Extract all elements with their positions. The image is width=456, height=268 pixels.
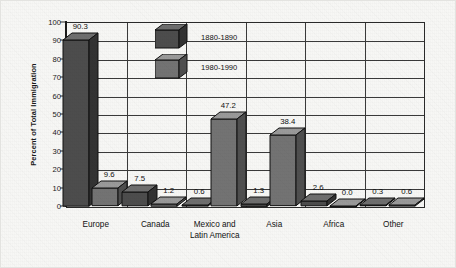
- x-axis-category-label: Mexico andLatin America: [190, 220, 240, 241]
- x-axis-category-label-line: Africa: [323, 220, 344, 231]
- y-axis: 0102030405060708090100: [39, 0, 61, 268]
- legend-item-label: 1880-1890: [201, 33, 237, 42]
- y-axis-tick-label: 80: [41, 54, 61, 63]
- x-axis-category-label-line: Mexico and: [190, 220, 240, 231]
- legend-swatch-cube: [155, 54, 189, 80]
- bar-value-label: 2.6: [313, 183, 324, 192]
- y-axis-tick-label: 40: [41, 128, 61, 137]
- bar-mexico-and-latin-america-series-2: [211, 112, 248, 208]
- legend-item-label: 1980-1990: [201, 63, 237, 72]
- y-axis-tick-label: 70: [41, 73, 61, 82]
- x-axis-category-label: Europe: [83, 220, 109, 231]
- y-axis-tick-label: 20: [41, 165, 61, 174]
- bars-layer: 90.39.67.51.20.647.21.338.42.60.00.30.6: [66, 22, 423, 206]
- bar-value-label: 0.0: [342, 188, 353, 197]
- bar-value-label: 7.5: [134, 174, 145, 183]
- bar-value-label: 1.3: [253, 186, 264, 195]
- y-axis-tick-label: 10: [41, 183, 61, 192]
- bar-value-label: 90.3: [73, 22, 88, 31]
- bar-value-label: 0.6: [194, 187, 205, 196]
- bar-value-label: 1.2: [163, 186, 174, 195]
- x-axis-category-label-line: Asia: [266, 220, 282, 231]
- legend-swatch-cube: [155, 24, 189, 50]
- x-axis-category-label-line: Europe: [83, 220, 109, 231]
- y-axis-title-label: Percent of Total Immigration: [29, 63, 38, 165]
- y-axis-tick-label: 50: [41, 110, 61, 119]
- x-axis-category-label-line: Other: [383, 220, 403, 231]
- bar-value-label: 0.6: [401, 187, 412, 196]
- x-axis-category-label: Asia: [266, 220, 282, 231]
- y-axis-title: Percent of Total Immigration: [26, 18, 40, 210]
- x-axis-category-label-line: Latin America: [190, 231, 240, 242]
- y-axis-tick-label: 90: [41, 36, 61, 45]
- y-axis-tick-label: 30: [41, 146, 61, 155]
- bar-value-label: 38.4: [280, 117, 295, 126]
- bar-value-label: 0.3: [372, 187, 383, 196]
- y-axis-tick-label: 100: [41, 18, 61, 27]
- x-axis-category-label-line: Canada: [141, 220, 170, 231]
- x-axis-category-label: Other: [383, 220, 403, 231]
- immigration-bar-chart-figure: Percent of Total Immigration 01020304050…: [0, 0, 456, 268]
- x-axis-category-label: Canada: [141, 220, 170, 231]
- x-axis-category-label: Africa: [323, 220, 344, 231]
- bar-value-label: 9.6: [104, 170, 115, 179]
- bar-other-series-2: [389, 198, 426, 208]
- bar-value-label: 47.2: [221, 101, 236, 110]
- y-axis-tick-label: 60: [41, 91, 61, 100]
- y-axis-tick-label: 0: [41, 202, 61, 211]
